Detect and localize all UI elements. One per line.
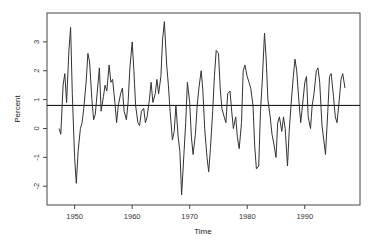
y-tick-label: -1 <box>32 154 41 161</box>
x-tick-label: 1950 <box>66 212 83 221</box>
series-line <box>59 22 345 195</box>
y-axis-title: Percent <box>13 94 22 122</box>
time-series-chart: 19501960197019801990 -2-10123 Time Perce… <box>0 0 381 247</box>
y-tick-label: 1 <box>32 98 41 102</box>
x-axis-title: Time <box>194 227 212 236</box>
x-tick-label: 1980 <box>239 212 256 221</box>
y-axis: -2-10123 <box>32 40 47 190</box>
x-tick-label: 1970 <box>181 212 198 221</box>
x-tick-label: 1960 <box>124 212 141 221</box>
x-axis: 19501960197019801990 <box>66 205 313 221</box>
y-tick-label: -2 <box>32 183 41 190</box>
y-tick-label: 3 <box>32 40 41 44</box>
y-tick-label: 2 <box>32 69 41 73</box>
y-tick-label: 0 <box>32 126 41 130</box>
x-tick-label: 1990 <box>296 212 313 221</box>
